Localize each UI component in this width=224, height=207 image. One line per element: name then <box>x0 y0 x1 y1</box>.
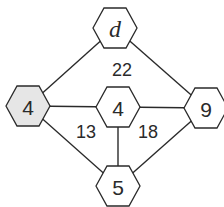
node-label-top: d <box>109 16 122 42</box>
node-label-center: 4 <box>112 97 124 120</box>
region-label-lower-left: 13 <box>76 122 96 142</box>
region-label-upper: 22 <box>112 60 132 80</box>
hexagon-graph: d4495 22 13 18 <box>0 0 224 207</box>
node-label-left: 4 <box>22 96 34 119</box>
node-center: 4 <box>96 87 140 127</box>
node-label-right: 9 <box>200 98 212 121</box>
region-label-lower-right: 18 <box>138 122 158 142</box>
node-label-bottom: 5 <box>112 176 124 199</box>
